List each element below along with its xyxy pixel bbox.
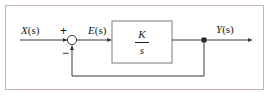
output-signal-label: Y(s) bbox=[216, 24, 234, 35]
transfer-function-fraction-bar bbox=[135, 42, 148, 43]
input-signal-label: X(s) bbox=[21, 25, 39, 36]
error-signal-variable: E bbox=[88, 24, 95, 36]
input-signal-variable: X bbox=[21, 24, 28, 36]
summing-junction-plus-sign: + bbox=[60, 25, 67, 37]
summing-junction-minus-sign: − bbox=[62, 47, 69, 59]
error-signal-argument: (s) bbox=[95, 24, 107, 36]
block-diagram-screenshot: X(s) E(s) Y(s) + − K s bbox=[0, 0, 270, 96]
transfer-function-expression: K s bbox=[112, 21, 172, 63]
summing-junction-circle bbox=[67, 35, 76, 44]
error-signal-label: E(s) bbox=[88, 25, 106, 36]
transfer-function-numerator: K bbox=[135, 28, 148, 41]
input-signal-argument: (s) bbox=[28, 24, 40, 36]
output-signal-argument: (s) bbox=[222, 23, 234, 35]
transfer-function-denominator: s bbox=[135, 44, 148, 57]
transfer-function-fraction: K s bbox=[135, 28, 148, 56]
